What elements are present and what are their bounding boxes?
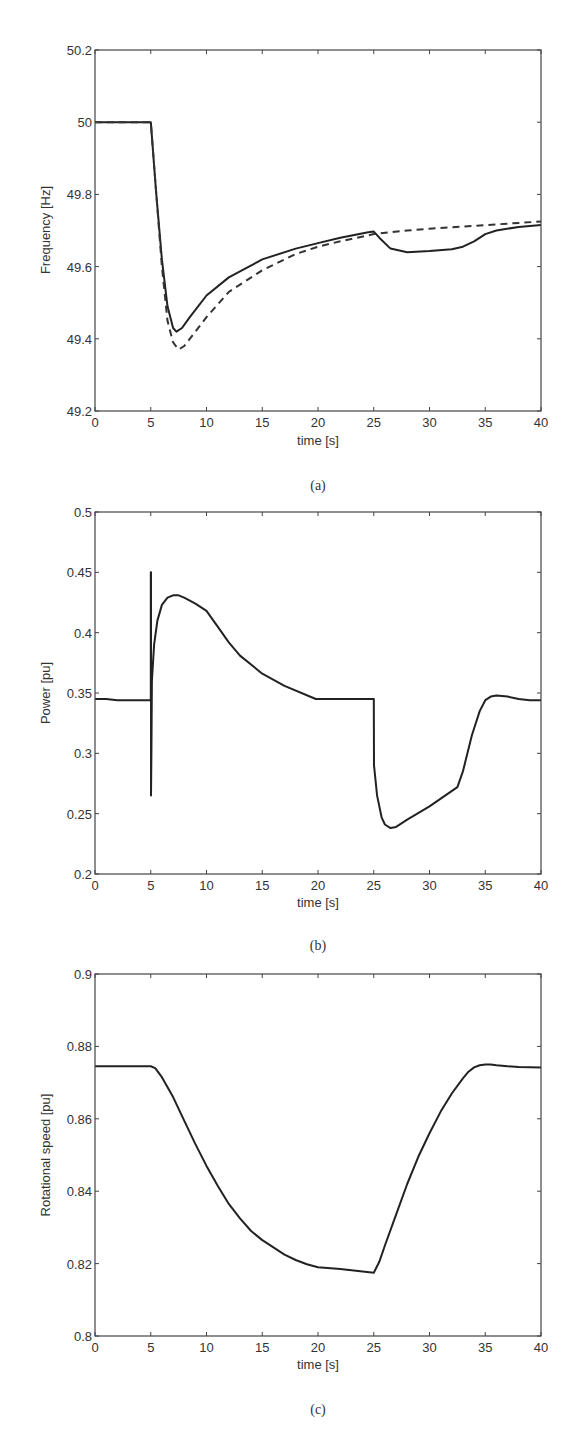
x-tick-label: 35 <box>478 878 492 893</box>
rotational-speed-x-axis-label: time [s] <box>297 1357 339 1372</box>
x-tick-label: 40 <box>534 1340 548 1355</box>
y-tick-label: 0.4 <box>74 626 92 641</box>
frequency-plot-lines <box>95 122 541 349</box>
y-tick-label: 50 <box>78 115 92 130</box>
x-tick-label: 5 <box>147 878 154 893</box>
x-tick-label: 30 <box>422 1340 436 1355</box>
power-y-axis-label: Power [pu] <box>38 662 53 724</box>
frequency-series-dashed <box>95 122 541 349</box>
y-tick-label: 0.82 <box>67 1257 92 1272</box>
frequency-chart-ticks: 051015202530354049.249.449.649.85050.2 <box>67 43 549 430</box>
x-tick-label: 40 <box>534 878 548 893</box>
y-tick-label: 0.25 <box>67 807 92 822</box>
y-tick-label: 49.4 <box>67 332 92 347</box>
x-tick-label: 15 <box>255 878 269 893</box>
y-tick-label: 0.35 <box>67 686 92 701</box>
y-tick-label: 49.6 <box>67 260 92 275</box>
y-tick-label: 0.8 <box>74 1329 92 1344</box>
x-tick-label: 20 <box>311 1340 325 1355</box>
y-tick-label: 0.88 <box>67 1039 92 1054</box>
x-tick-label: 25 <box>367 415 381 430</box>
power-series-power <box>95 572 541 828</box>
y-tick-label: 50.2 <box>67 43 92 58</box>
x-tick-label: 40 <box>534 415 548 430</box>
y-tick-label: 0.45 <box>67 565 92 580</box>
power-chart-frame <box>95 512 541 874</box>
rotational-speed-chart-caption: (c) <box>310 1402 326 1418</box>
y-tick-label: 49.8 <box>67 187 92 202</box>
x-tick-label: 5 <box>147 415 154 430</box>
x-tick-label: 35 <box>478 1340 492 1355</box>
x-tick-label: 10 <box>199 878 213 893</box>
x-tick-label: 15 <box>255 415 269 430</box>
frequency-chart-caption: (a) <box>310 478 326 494</box>
y-tick-label: 0.5 <box>74 505 92 520</box>
x-tick-label: 30 <box>422 878 436 893</box>
x-tick-label: 10 <box>199 415 213 430</box>
x-tick-label: 0 <box>91 878 98 893</box>
rotational-speed-chart-ticks: 05101520253035400.80.820.840.860.880.9 <box>67 967 549 1355</box>
x-tick-label: 0 <box>91 415 98 430</box>
y-tick-label: 0.3 <box>74 746 92 761</box>
rotational-speed-plot-lines <box>95 1065 541 1273</box>
x-tick-label: 35 <box>478 415 492 430</box>
y-tick-label: 0.84 <box>67 1184 92 1199</box>
frequency-chart-panel: 051015202530354049.249.449.649.85050.2 t… <box>38 43 548 494</box>
figure: 051015202530354049.249.449.649.85050.2 t… <box>0 0 579 1449</box>
x-tick-label: 15 <box>255 1340 269 1355</box>
y-tick-label: 0.2 <box>74 867 92 882</box>
x-tick-label: 20 <box>311 415 325 430</box>
power-chart-caption: (b) <box>310 938 327 954</box>
y-tick-label: 0.86 <box>67 1112 92 1127</box>
frequency-y-axis-label: Frequency [Hz] <box>38 186 53 274</box>
y-tick-label: 49.2 <box>67 404 92 419</box>
power-chart-ticks: 05101520253035400.20.250.30.350.40.450.5 <box>67 505 549 893</box>
x-tick-label: 25 <box>367 878 381 893</box>
frequency-x-axis-label: time [s] <box>297 433 339 448</box>
rotational-speed-chart-panel: 05101520253035400.80.820.840.860.880.9 t… <box>38 967 548 1418</box>
x-tick-label: 0 <box>91 1340 98 1355</box>
x-tick-label: 25 <box>367 1340 381 1355</box>
power-x-axis-label: time [s] <box>297 895 339 910</box>
x-tick-label: 20 <box>311 878 325 893</box>
rotational-speed-series-speed <box>95 1065 541 1273</box>
x-tick-label: 10 <box>199 1340 213 1355</box>
rotational-speed-chart-frame <box>95 974 541 1336</box>
y-tick-label: 0.9 <box>74 967 92 982</box>
frequency-series-solid <box>95 122 541 331</box>
power-chart-panel: 05101520253035400.20.250.30.350.40.450.5… <box>38 505 548 954</box>
x-tick-label: 5 <box>147 1340 154 1355</box>
rotational-speed-y-axis-label: Rotational speed [pu] <box>38 1094 53 1217</box>
x-tick-label: 30 <box>422 415 436 430</box>
power-plot-lines <box>95 572 541 828</box>
frequency-chart-frame <box>95 50 541 411</box>
